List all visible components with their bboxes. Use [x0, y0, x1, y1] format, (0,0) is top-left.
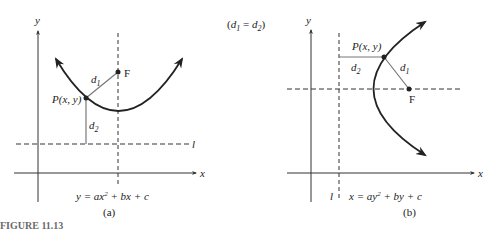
focus-label: F [409, 93, 415, 105]
directrix-label: l [330, 190, 333, 202]
figure-canvas: y x l F P(x, y) d1 d2 y = ax2 + bx + c (… [0, 0, 491, 237]
focus-label: F [124, 67, 130, 79]
d1-label: d1 [91, 73, 101, 88]
equation-a: y = ax2 + bx + c [75, 190, 149, 202]
x-axis-label: x [477, 167, 483, 179]
d2-label: d2 [89, 119, 99, 134]
directrix-label: l [192, 138, 195, 150]
sublabel-a: (a) [103, 206, 116, 219]
relation-note: (d1 = d2) [227, 18, 265, 33]
equation-b: x = ay2 + by + c [348, 190, 422, 202]
point-p [84, 96, 89, 101]
sublabel-b: (b) [403, 206, 416, 219]
focus-point [407, 87, 412, 92]
point-label: P(x, y) [51, 93, 82, 106]
y-axis-label: y [305, 14, 311, 26]
point-label: P(x, y) [351, 40, 382, 53]
x-axis-label: x [199, 167, 205, 179]
focus-point [116, 70, 121, 75]
y-axis-label: y [34, 14, 40, 26]
d2-label: d2 [351, 61, 361, 76]
point-p [382, 55, 387, 60]
d1-label: d1 [400, 61, 410, 76]
panel-b: y x l F P(x, y) d2 d1 x = ay2 + by + c (… [287, 14, 483, 219]
panel-a: y x l F P(x, y) d1 d2 y = ax2 + bx + c (… [14, 14, 205, 219]
figure-caption: FIGURE 11.13 [0, 220, 63, 231]
